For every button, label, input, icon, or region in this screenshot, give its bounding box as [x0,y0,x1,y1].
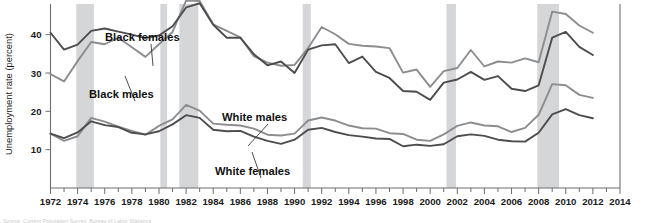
x-tick-label: 2000 [419,196,440,207]
source-note: Source: Current Population Survey, Burea… [3,218,151,223]
series-line [51,109,593,146]
x-tick-label: 1994 [338,196,360,207]
series-line [51,3,593,100]
recession-band [303,4,311,188]
x-tick-label: 1976 [94,196,115,207]
x-tick-label: 1986 [230,196,251,207]
y-tick-label: 20 [31,106,42,117]
recession-band [537,4,559,188]
recession-band [179,4,198,188]
y-tick-label: 40 [31,29,42,40]
series-annotation-label: White females [215,165,290,177]
series-annotation-label: Black males [89,88,154,100]
x-tick-label: 2002 [447,196,468,207]
x-tick-label: 2010 [555,196,576,207]
x-tick-label: 1988 [257,196,279,207]
y-tick-label: 10 [31,144,42,155]
x-tick-label: 1978 [121,196,143,207]
y-tick-label: 30 [31,68,42,79]
recession-band [446,4,455,188]
series-line [51,1,593,87]
x-tick-label: 1990 [284,196,305,207]
x-tick-label: 1998 [392,196,414,207]
x-tick-label: 2006 [501,196,522,207]
x-tick-label: 2012 [582,196,603,207]
series-annotation-label: Black females [105,31,180,43]
x-tick-label: 1974 [67,196,89,207]
series-annotation-label: White males [222,111,287,123]
series-group [51,1,593,147]
x-tick-label: 1984 [203,196,225,207]
annotation-leader-line [151,44,153,66]
x-tick-label: 1980 [148,196,169,207]
x-tick-label: 1982 [175,196,196,207]
unemployment-rate-chart: Black femalesBlack malesWhite malesWhite… [0,0,649,223]
x-tick-label: 1996 [365,196,386,207]
x-tick-label: 2004 [474,196,496,207]
x-tick-label: 2014 [609,196,631,207]
chart-canvas: Black femalesBlack malesWhite malesWhite… [0,0,649,223]
x-tick-label: 1992 [311,196,332,207]
x-tick-label: 2008 [528,196,550,207]
x-tick-label: 1972 [40,196,61,207]
y-axis-title: Unemployment rate (percent) [3,33,14,155]
